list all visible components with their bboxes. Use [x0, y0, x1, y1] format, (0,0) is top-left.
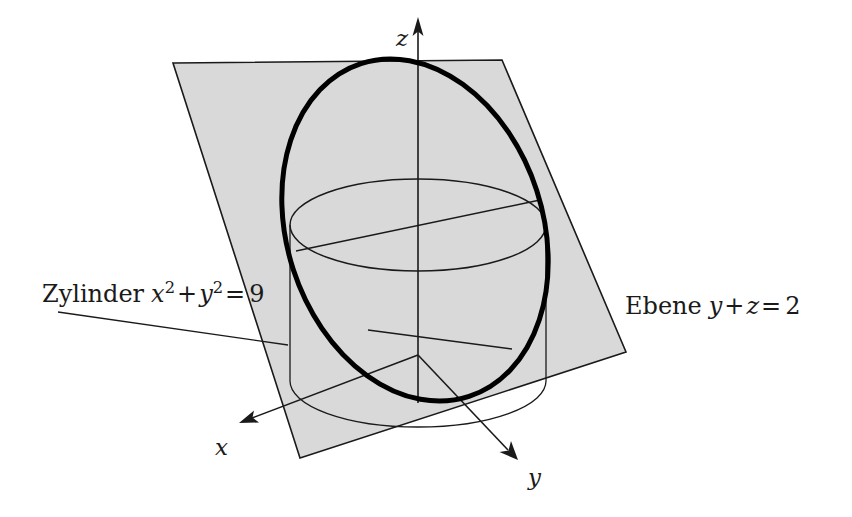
cylinder-label-leader — [58, 312, 288, 345]
cylinder-label-var-x: x — [151, 280, 165, 308]
plane-label-var-y: y — [709, 292, 723, 320]
plane-surface — [173, 60, 626, 458]
x-axis-label: x — [215, 436, 228, 459]
diagram-canvas — [0, 0, 852, 517]
plane-equation-label: Ebeney+z=2 — [625, 294, 802, 318]
figure-root: z x y Zylinderx2+y2=9 Ebeney+z=2 — [0, 0, 852, 517]
z-axis-label: z — [396, 27, 408, 50]
cylinder-label-word: Zylinder — [42, 280, 151, 308]
plane-label-var-z: z — [746, 292, 759, 320]
cylinder-label-var-y: y — [199, 280, 213, 308]
cylinder-label-exp-1: 2 — [165, 278, 175, 297]
plane-label-value: 2 — [783, 292, 802, 320]
cylinder-equation-label: Zylinderx2+y2=9 — [42, 280, 266, 306]
cylinder-label-value: 9 — [247, 280, 266, 308]
plane-label-equals: = — [759, 292, 783, 320]
plane-label-plus: + — [722, 292, 746, 320]
cylinder-label-equals: = — [223, 280, 247, 308]
plane-label-word: Ebene — [625, 292, 709, 320]
cylinder-label-plus: + — [175, 280, 199, 308]
cylinder-label-exp-2: 2 — [213, 278, 223, 297]
y-axis-label: y — [528, 466, 541, 489]
